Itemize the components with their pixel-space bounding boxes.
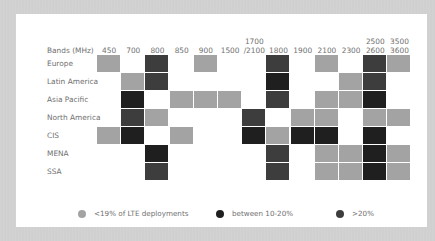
heatmap-cell [363, 145, 386, 162]
legend-swatch-mid [216, 210, 224, 218]
row-label: Latin America [47, 77, 98, 86]
column-header-line1: 3500 [383, 37, 415, 46]
heatmap-cell [339, 163, 362, 180]
row-label: North America [47, 113, 101, 122]
legend-item-high: >20% [336, 209, 374, 218]
heatmap-cell [170, 127, 193, 144]
legend-item-low: <19% of LTE deployments [78, 209, 188, 218]
heatmap-cell [363, 109, 386, 126]
heatmap-cell [266, 91, 289, 108]
column-header-line1: 1700 [238, 37, 270, 46]
heatmap-cell [315, 127, 338, 144]
legend-label-mid: between 10-20% [232, 209, 293, 218]
heatmap-cell [121, 73, 144, 90]
row-label: MENA [47, 149, 69, 158]
heatmap-cell [218, 91, 241, 108]
heatmap-cell [387, 145, 410, 162]
heatmap-cell [339, 145, 362, 162]
heatmap-cell [145, 73, 168, 90]
heatmap-cell [315, 145, 338, 162]
heatmap-cell [242, 109, 265, 126]
heatmap-cell [145, 145, 168, 162]
row-label: Europe [47, 59, 73, 68]
heatmap-cell [339, 73, 362, 90]
heatmap-cell [339, 91, 362, 108]
heatmap-cell [266, 163, 289, 180]
heatmap-cell [121, 91, 144, 108]
legend-label-high: >20% [352, 209, 374, 218]
heatmap-cell [97, 127, 120, 144]
legend-swatch-high [336, 210, 344, 218]
legend-swatch-low [78, 210, 86, 218]
row-label: SSA [47, 167, 62, 176]
heatmap-cell [194, 55, 217, 72]
heatmap-cell [387, 109, 410, 126]
heatmap-cell [315, 163, 338, 180]
heatmap-cell [97, 55, 120, 72]
column-header-line2: 3600 [383, 46, 415, 55]
heatmap-cell [145, 109, 168, 126]
heatmap-cell [266, 73, 289, 90]
heatmap-cell [291, 127, 314, 144]
heatmap-cell [291, 109, 314, 126]
heatmap-cell [315, 91, 338, 108]
heatmap-cell [121, 127, 144, 144]
heatmap-cell [363, 73, 386, 90]
heatmap-cell [266, 145, 289, 162]
heatmap-cell [121, 109, 144, 126]
heatmap-cell [387, 55, 410, 72]
heatmap-cell [170, 91, 193, 108]
heatmap-cell [315, 109, 338, 126]
legend-label-low: <19% of LTE deployments [94, 209, 188, 218]
heatmap-cell [387, 163, 410, 180]
legend-item-mid: between 10-20% [216, 209, 293, 218]
heatmap-cell [242, 127, 265, 144]
heatmap-cell [266, 55, 289, 72]
heatmap-cell [363, 91, 386, 108]
heatmap-cell [145, 55, 168, 72]
column-header: 35003600 [383, 37, 415, 55]
heatmap-cell [266, 127, 289, 144]
heatmap-cell [145, 163, 168, 180]
heatmap-cell [194, 91, 217, 108]
row-label: Asia Pacific [47, 95, 88, 104]
heatmap-cell [363, 55, 386, 72]
heatmap-cell [363, 127, 386, 144]
bands-header-label: Bands (MHz) [47, 46, 94, 55]
heatmap-cell [315, 55, 338, 72]
heatmap-cell [363, 163, 386, 180]
row-label: CIS [47, 131, 59, 140]
chart-panel: Bands (MHz) 45070080085090015001700/2100… [16, 14, 427, 227]
